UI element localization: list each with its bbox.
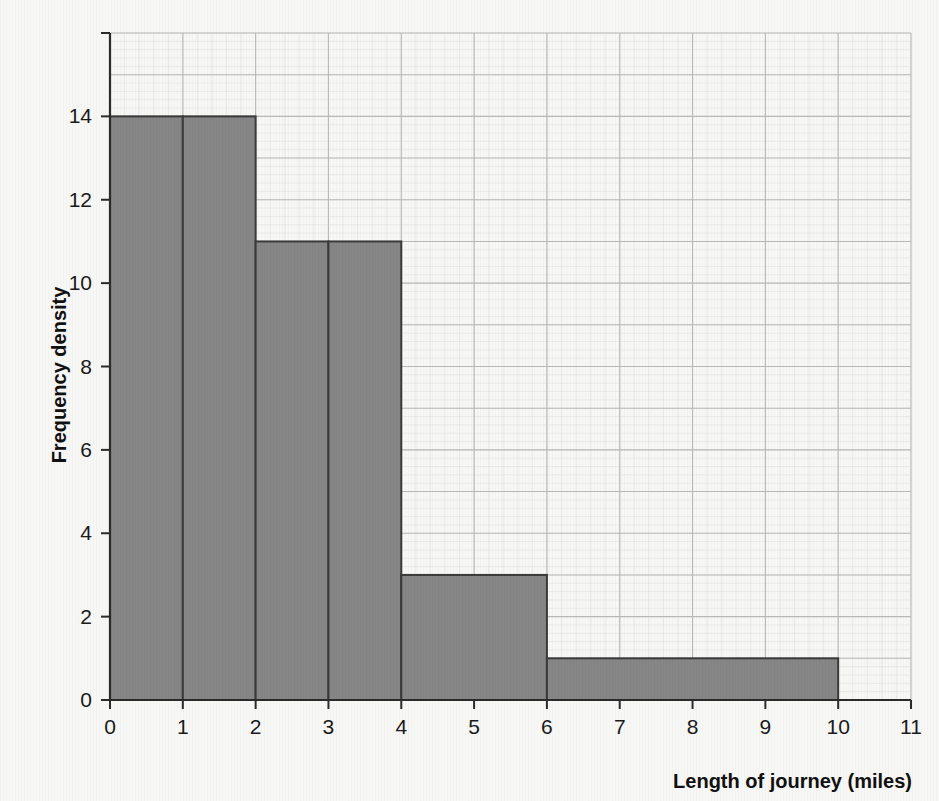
x-axis-tick-labels: 01234567891011 xyxy=(104,715,922,738)
y-tick-label: 0 xyxy=(80,688,92,711)
x-axis-title: Length of journey (miles) xyxy=(673,770,912,792)
x-tick-label: 8 xyxy=(687,715,699,738)
y-tick-label: 8 xyxy=(80,355,92,378)
y-tick-label: 6 xyxy=(80,438,92,461)
y-tick-label: 4 xyxy=(80,521,92,544)
histogram-bar xyxy=(401,575,547,700)
histogram-bar xyxy=(256,241,329,700)
histogram-bar xyxy=(183,116,256,700)
x-tick-label: 3 xyxy=(323,715,335,738)
x-tick-label: 1 xyxy=(177,715,189,738)
histogram-figure: 01234567891011 02468101214 Frequency den… xyxy=(0,0,939,801)
chart-page: 01234567891011 02468101214 Frequency den… xyxy=(0,0,939,801)
x-tick-label: 4 xyxy=(395,715,407,738)
y-tick-label: 10 xyxy=(69,271,92,294)
histogram-bar xyxy=(110,116,183,700)
histogram-bar xyxy=(547,658,838,700)
x-tick-label: 11 xyxy=(900,715,922,738)
x-tick-label: 0 xyxy=(104,715,116,738)
x-tick-label: 10 xyxy=(827,715,850,738)
x-tick-label: 9 xyxy=(760,715,772,738)
x-tick-label: 2 xyxy=(250,715,262,738)
y-tick-label: 2 xyxy=(80,605,92,628)
y-axis-title: Frequency density xyxy=(48,286,70,464)
y-tick-label: 14 xyxy=(69,104,93,127)
y-axis-tick-labels: 02468101214 xyxy=(69,104,93,711)
x-tick-label: 5 xyxy=(468,715,480,738)
histogram-bar xyxy=(328,241,401,700)
y-tick-label: 12 xyxy=(69,188,92,211)
x-tick-label: 7 xyxy=(614,715,626,738)
x-tick-label: 6 xyxy=(541,715,553,738)
